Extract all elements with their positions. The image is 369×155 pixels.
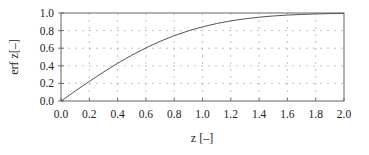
- x-tick-label: 0.2: [82, 108, 97, 120]
- x-tick-label: 0.4: [110, 108, 125, 120]
- x-tick-label: 1.6: [280, 108, 295, 120]
- x-tick-label: 1.4: [252, 108, 267, 120]
- y-tick-label: 0.4: [40, 60, 55, 72]
- y-tick-label: 0.6: [40, 42, 55, 54]
- x-tick-label: 1.0: [195, 108, 210, 120]
- x-tick-label: 2.0: [337, 108, 352, 120]
- x-tick-label: 1.8: [309, 108, 324, 120]
- x-tick-label: 0.6: [139, 108, 154, 120]
- y-tick-label: 0.8: [40, 25, 55, 37]
- x-tick-label: 0.8: [167, 108, 182, 120]
- gridlines: [61, 13, 344, 101]
- y-tick-label: 0.2: [40, 77, 55, 89]
- y-axis-label: erf z[–]: [7, 39, 21, 75]
- x-tick-label: 0.0: [54, 108, 69, 120]
- y-axis-ticks: 0.00.20.40.60.81.0: [40, 7, 64, 107]
- erf-curve: [61, 13, 344, 101]
- x-axis-label: z [–]: [191, 131, 213, 145]
- y-tick-label: 0.0: [40, 95, 55, 107]
- erf-chart: 0.00.20.40.60.81.01.21.41.61.82.0 0.00.2…: [0, 0, 369, 155]
- x-tick-label: 1.2: [224, 108, 239, 120]
- y-tick-label: 1.0: [40, 7, 55, 19]
- chart-canvas: 0.00.20.40.60.81.01.21.41.61.82.0 0.00.2…: [0, 0, 369, 155]
